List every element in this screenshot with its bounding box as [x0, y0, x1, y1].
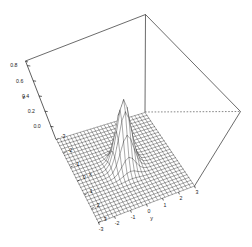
box-edge-top-left [26, 15, 146, 62]
y-tick-label: -1 [131, 214, 136, 220]
y-tick-mark [131, 210, 132, 212]
y-tick-label: 2 [180, 195, 183, 201]
x-tick-label: -2 [68, 147, 73, 153]
z-axis: 0.8 0.6 0.4 0.2 0.0 z [10, 61, 56, 140]
box-edge-vertical-back [145, 15, 146, 113]
x-tick-label: 0 [83, 174, 86, 180]
y-axis-title: y [150, 215, 153, 221]
x-tick-label: -1 [75, 161, 80, 167]
z-axis-title: z [22, 94, 25, 100]
box-edge-top-right [146, 15, 241, 112]
x-tick-label: -3 [61, 133, 66, 139]
z-tick-label-3: 0.2 [28, 108, 35, 114]
z-tick-label-4: 0.0 [33, 123, 40, 129]
y-tick-mark [99, 223, 100, 225]
surface-plot-figure: 0.8 0.6 0.4 0.2 0.0 z -3-2-10123 x -3-2-… [0, 0, 252, 247]
x-axis-title: x [89, 171, 92, 177]
x-tick-label: 3 [104, 216, 107, 222]
y-tick-label: 1 [164, 202, 167, 208]
y-tick-mark [147, 204, 148, 206]
y-tick-mark [179, 192, 180, 194]
y-tick-label: -2 [115, 220, 120, 226]
x-tick-label: 1 [90, 188, 93, 194]
y-tick-label: 0 [148, 208, 151, 214]
y-tick-mark [115, 216, 116, 218]
y-tick-mark [163, 198, 164, 200]
plot-canvas: 0.8 0.6 0.4 0.2 0.0 z -3-2-10123 x -3-2-… [0, 0, 252, 247]
y-tick-label: 3 [196, 189, 199, 195]
z-tick-label-1: 0.6 [16, 78, 23, 84]
y-tick-mark [195, 186, 196, 188]
box-edge-right-down [195, 112, 241, 187]
z-tick-label-0: 0.8 [10, 62, 17, 68]
x-tick-label: 2 [97, 202, 100, 208]
box-edge-hidden-dotted [145, 112, 241, 113]
z-axis-line [26, 61, 57, 140]
y-tick-label: -3 [99, 226, 104, 232]
